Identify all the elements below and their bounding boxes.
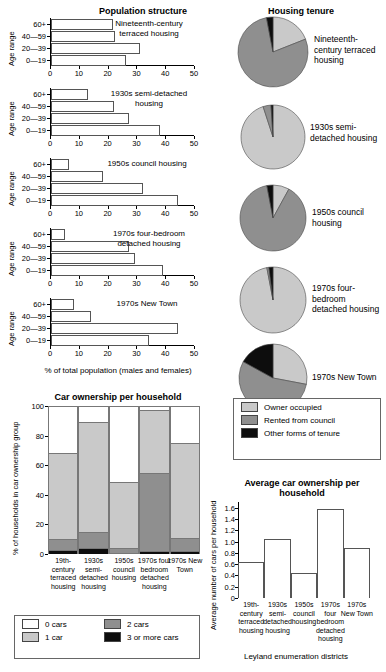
legend-label: Other forms of tenure	[264, 429, 340, 438]
legend-item-0-cars: 0 cars	[22, 619, 97, 629]
population-y-tickmark	[47, 188, 50, 189]
population-bar	[51, 43, 140, 54]
car-ownership-column	[139, 406, 169, 554]
population-y-tick: 0—19	[16, 56, 46, 65]
population-x-tick: 10	[71, 209, 87, 218]
population-y-tick: 60+	[16, 90, 46, 99]
swatch-0-cars	[22, 619, 39, 629]
population-y-tick: 60+	[16, 230, 46, 239]
swatch-rented-from-council	[241, 415, 258, 425]
population-y-axis-label: Age range	[7, 16, 16, 66]
population-bar	[51, 159, 69, 170]
car-ownership-y-tick: 20	[24, 520, 44, 529]
population-bar	[51, 171, 103, 182]
population-x-tick: 50	[186, 279, 202, 288]
tenure-pie-label: 1970s four-bedroom detached housing	[312, 283, 382, 315]
average-cars-y-tickmark	[235, 542, 238, 543]
population-x-tick: 40	[157, 139, 173, 148]
population-y-tick: 20—39	[16, 114, 46, 123]
population-bar	[51, 125, 160, 136]
car-ownership-y-tick: 40	[24, 491, 44, 500]
car-ownership-segment	[140, 410, 168, 472]
population-y-tick: 0—19	[16, 336, 46, 345]
population-y-tick: 40—59	[16, 32, 46, 41]
swatch-1-car	[22, 632, 39, 642]
car-ownership-column	[109, 406, 139, 554]
tenure-pie-label: 1970s New Town	[312, 372, 382, 383]
car-ownership-y-tick: 80	[24, 432, 44, 441]
population-y-tickmark	[47, 270, 50, 271]
car-ownership-category-label: 1970s New Town	[167, 557, 203, 574]
car-ownership-segment	[140, 473, 168, 551]
population-x-tick: 20	[100, 69, 116, 78]
car-ownership-segment	[171, 538, 199, 551]
population-y-tick: 0—19	[16, 126, 46, 135]
population-x-tick: 0	[42, 349, 58, 358]
swatch-2-cars	[104, 619, 121, 629]
average-cars-y-tick: 0.2	[213, 583, 235, 592]
legend-label: Owner occupied	[264, 403, 322, 412]
population-x-tick: 50	[186, 69, 202, 78]
swatch-owner-occupied	[241, 402, 258, 412]
car-ownership-segment	[110, 406, 138, 481]
average-cars-y-tick: 1.6	[213, 504, 235, 513]
population-y-tick: 60+	[16, 300, 46, 309]
population-y-axis-label: Age range	[7, 226, 16, 276]
population-y-tickmark	[47, 234, 50, 235]
legend-item-owner-occupied: Owner occupied	[241, 402, 380, 412]
swatch-3-or-more-cars	[104, 632, 121, 642]
population-y-axis-label: Age range	[7, 296, 16, 346]
population-y-tickmark	[47, 36, 50, 37]
population-bar	[51, 299, 74, 310]
population-y-tick: 20—39	[16, 44, 46, 53]
car-ownership-y-axis-label: % of households in car ownership group	[11, 400, 20, 555]
population-bar	[51, 89, 88, 100]
tenure-pie	[239, 184, 307, 252]
car-ownership-y-tick: 0	[24, 550, 44, 559]
population-bar	[51, 311, 91, 322]
average-cars-y-tick: 0	[213, 594, 235, 603]
average-cars-bar	[344, 548, 370, 598]
legend-label: 3 or more cars	[127, 633, 179, 642]
average-cars-bar	[238, 562, 264, 598]
population-y-tick: 0—19	[16, 196, 46, 205]
population-bar	[51, 253, 135, 264]
population-bar	[51, 229, 65, 240]
population-panel-label: 1930s semi-detached housing	[102, 89, 196, 109]
tenure-pie	[237, 16, 309, 88]
population-x-tick: 10	[71, 69, 87, 78]
legend-item-3-or-more-cars: 3 or more cars	[104, 632, 197, 642]
car-ownership-segment	[171, 443, 199, 538]
average-cars-y-tickmark	[235, 553, 238, 554]
population-x-tick: 0	[42, 209, 58, 218]
average-cars-y-tick: 1.2	[213, 526, 235, 535]
tenure-pie-label: 1950s council housing	[312, 207, 382, 228]
housing-tenure-title: Housing tenure	[236, 6, 366, 16]
car-ownership-segment	[171, 406, 199, 443]
population-y-tickmark	[47, 246, 50, 247]
population-y-tick: 40—59	[16, 102, 46, 111]
population-x-tick: 50	[186, 209, 202, 218]
population-y-tickmark	[47, 118, 50, 119]
car-ownership-segment	[49, 539, 77, 549]
population-y-tickmark	[47, 60, 50, 61]
car-ownership-segment	[110, 553, 138, 554]
average-car-ownership-title: Average car ownership per household	[232, 478, 372, 498]
swatch-other-tenure	[241, 428, 258, 438]
population-panel-label: 1970s New Town	[98, 299, 196, 309]
population-x-tick: 30	[128, 349, 144, 358]
population-y-tickmark	[47, 176, 50, 177]
legend-item-other-tenure: Other forms of tenure	[241, 428, 380, 438]
average-cars-y-tickmark	[235, 519, 238, 520]
population-x-tick: 40	[157, 209, 173, 218]
population-x-tick: 20	[100, 139, 116, 148]
population-x-axis-label: % of total population (males and females…	[18, 366, 218, 375]
population-x-tick: 0	[42, 69, 58, 78]
tenure-pie-label: Nineteenth-century terraced housing	[314, 34, 380, 66]
population-bar	[51, 183, 143, 194]
population-x-tick: 30	[128, 69, 144, 78]
legend-item-rented-from-council: Rented from council	[241, 415, 380, 425]
population-y-tickmark	[47, 258, 50, 259]
population-panel-label: 1950s council housing	[98, 159, 196, 169]
car-ownership-segment	[140, 551, 168, 554]
